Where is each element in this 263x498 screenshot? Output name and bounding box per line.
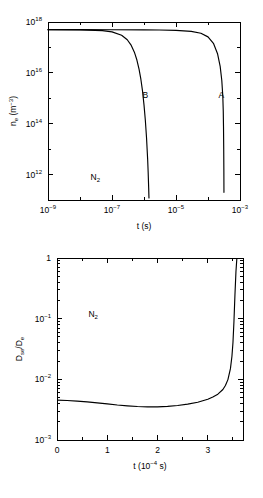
gas-label-n2: N2 xyxy=(91,172,101,183)
x-axis-title: t (s) xyxy=(137,221,152,231)
bottom-panel-diffusion-ratio: 012310−310−210−11N2t (10−4 s)Dse/De xyxy=(0,248,263,498)
top-plot-group: 10−910−710−510−31012101410161018N2BAt (s… xyxy=(8,16,249,231)
x-tick-label: 2 xyxy=(155,445,160,455)
plot-frame xyxy=(57,258,243,440)
y-tick-label: 1016 xyxy=(26,67,43,78)
x-axis-title: t (10−4 s) xyxy=(133,460,166,471)
y-tick-label: 1012 xyxy=(26,169,43,180)
x-tick-label: 0 xyxy=(55,445,60,455)
figure-container: 10−910−710−510−31012101410161018N2BAt (s… xyxy=(0,0,263,498)
curve-a xyxy=(48,30,224,193)
y-tick-label: 1018 xyxy=(26,16,43,27)
bottom-plot-group: 012310−310−210−11N2t (10−4 s)Dse/De xyxy=(14,253,243,471)
x-tick-label: 10−5 xyxy=(168,204,185,215)
curve-b xyxy=(48,30,149,198)
top-panel-electron-density: 10−910−710−510−31012101410161018N2BAt (s… xyxy=(0,0,263,248)
x-tick-label: 10−7 xyxy=(104,204,121,215)
curve-label-b: B xyxy=(142,90,148,100)
curve-label-a: A xyxy=(218,90,224,100)
y-axis-title: Dse/De xyxy=(14,336,25,361)
gas-label-n2: N2 xyxy=(88,309,98,320)
x-tick-label: 1 xyxy=(105,445,110,455)
x-tick-label: 3 xyxy=(205,445,210,455)
y-tick-label: 10−2 xyxy=(35,373,52,384)
y-axis-title: ne (m−3) xyxy=(8,96,19,126)
bottom-chart-svg: 012310−310−210−11N2t (10−4 s)Dse/De xyxy=(0,248,263,498)
y-tick-label: 1 xyxy=(46,253,51,263)
y-tick-label: 10−1 xyxy=(35,313,52,324)
y-tick-label: 1014 xyxy=(26,118,43,129)
top-chart-svg: 10−910−710−510−31012101410161018N2BAt (s… xyxy=(0,0,263,248)
y-tick-label: 10−3 xyxy=(35,434,52,445)
x-tick-label: 10−3 xyxy=(232,204,249,215)
x-tick-label: 10−9 xyxy=(40,204,57,215)
curve-diffusion-ratio xyxy=(57,257,237,407)
